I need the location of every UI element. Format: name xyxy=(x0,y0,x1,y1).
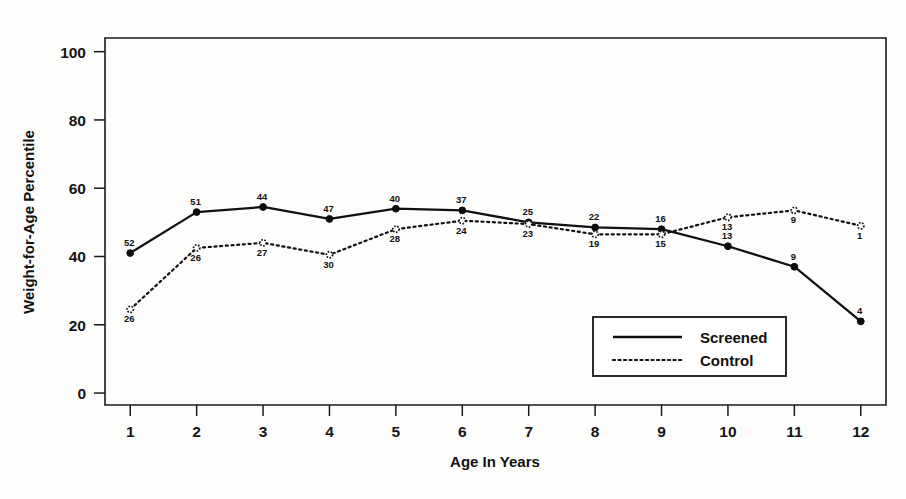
data-point-screened-age-3 xyxy=(260,204,267,211)
x-tick-label-9: 9 xyxy=(657,423,666,440)
data-point-control-age-6 xyxy=(459,218,465,224)
data-point-control-age-1 xyxy=(127,306,133,312)
data-point-screened-age-4 xyxy=(326,216,333,223)
x-tick-label-3: 3 xyxy=(259,423,268,440)
x-axis-title: Age In Years xyxy=(450,453,540,470)
point-label-control-age-2: 26 xyxy=(190,252,201,263)
data-point-control-age-10 xyxy=(725,214,731,220)
weight-for-age-percentile-line-chart: 020406080100 123456789101112 52514447403… xyxy=(0,0,906,499)
point-label-screened-age-5: 40 xyxy=(390,193,401,204)
point-label-screened-age-3: 44 xyxy=(257,191,268,202)
x-tick-label-6: 6 xyxy=(458,423,467,440)
legend[interactable]: Screened Control xyxy=(593,317,786,376)
x-axis-ticks: 123456789101112 xyxy=(126,405,869,440)
point-label-control-age-8: 19 xyxy=(589,238,600,249)
data-point-control-age-9 xyxy=(658,231,664,237)
y-axis-ticks: 020406080100 xyxy=(60,44,105,402)
x-tick-label-12: 12 xyxy=(852,423,869,440)
chart-figure: 020406080100 123456789101112 52514447403… xyxy=(0,0,906,499)
legend-label-screened: Screened xyxy=(700,329,768,346)
point-label-control-age-1: 26 xyxy=(124,313,135,324)
point-label-screened-age-7: 25 xyxy=(522,206,533,217)
data-point-labels-layer: 5251444740372522161394262627302824231915… xyxy=(124,191,863,324)
x-tick-label-2: 2 xyxy=(192,423,201,440)
point-label-screened-age-11: 9 xyxy=(791,251,796,262)
data-point-control-age-11 xyxy=(791,207,797,213)
point-label-screened-age-6: 37 xyxy=(456,194,467,205)
point-label-control-age-3: 27 xyxy=(257,247,268,258)
data-point-control-age-3 xyxy=(260,240,266,246)
y-tick-label-0: 0 xyxy=(77,385,86,402)
data-point-screened-age-1 xyxy=(127,250,134,257)
legend-label-control: Control xyxy=(700,352,753,369)
x-tick-label-8: 8 xyxy=(591,423,600,440)
data-point-control-age-2 xyxy=(194,245,200,251)
data-point-screened-age-12 xyxy=(857,318,864,325)
series-line-screened xyxy=(130,207,861,321)
point-label-control-age-12: 1 xyxy=(857,230,863,241)
data-series-layer xyxy=(130,207,861,321)
x-tick-label-10: 10 xyxy=(719,423,736,440)
legend-box xyxy=(593,317,786,376)
data-point-screened-age-5 xyxy=(392,205,399,212)
data-point-screened-age-10 xyxy=(725,243,732,250)
y-tick-label-20: 20 xyxy=(69,317,86,334)
data-point-screened-age-6 xyxy=(459,207,466,214)
point-label-screened-age-4: 47 xyxy=(323,203,334,214)
y-tick-label-80: 80 xyxy=(69,112,86,129)
data-point-screened-age-11 xyxy=(791,263,798,270)
x-tick-label-4: 4 xyxy=(325,423,334,440)
data-point-screened-age-2 xyxy=(193,209,200,216)
point-label-control-age-6: 24 xyxy=(456,225,467,236)
data-point-control-age-8 xyxy=(592,231,598,237)
point-label-control-age-5: 28 xyxy=(390,233,401,244)
data-point-control-age-7 xyxy=(526,221,532,227)
x-tick-label-11: 11 xyxy=(786,423,803,440)
y-tick-label-100: 100 xyxy=(60,44,86,61)
series-line-control xyxy=(130,210,861,309)
x-tick-label-1: 1 xyxy=(126,423,135,440)
point-label-control-age-10: 13 xyxy=(722,221,733,232)
point-label-screened-age-12: 4 xyxy=(857,305,863,316)
point-label-control-age-11: 9 xyxy=(791,214,796,225)
point-label-screened-age-8: 22 xyxy=(589,211,600,222)
data-point-screened-age-8 xyxy=(592,224,599,231)
y-tick-label-60: 60 xyxy=(69,180,86,197)
data-point-control-age-5 xyxy=(393,226,399,232)
x-tick-label-7: 7 xyxy=(524,423,533,440)
point-label-screened-age-2: 51 xyxy=(190,196,201,207)
point-label-screened-age-9: 16 xyxy=(655,213,666,224)
x-tick-label-5: 5 xyxy=(392,423,401,440)
y-axis-title: Weight-for-Age Percentile xyxy=(20,130,37,314)
point-label-screened-age-1: 52 xyxy=(124,237,135,248)
point-label-control-age-9: 15 xyxy=(655,238,666,249)
point-label-control-age-4: 30 xyxy=(323,259,334,270)
data-point-control-age-12 xyxy=(858,223,864,229)
y-tick-label-40: 40 xyxy=(69,248,86,265)
point-label-control-age-7: 23 xyxy=(522,228,533,239)
data-point-control-age-4 xyxy=(326,252,332,258)
